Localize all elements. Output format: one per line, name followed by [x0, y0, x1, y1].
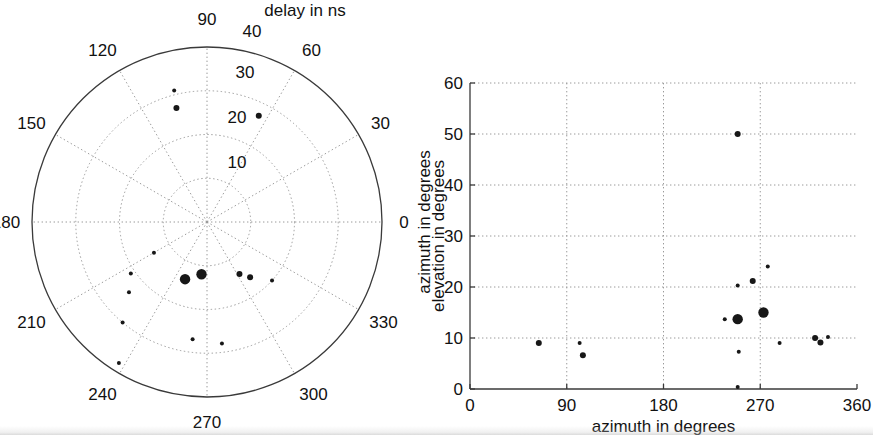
cart-data-point — [766, 265, 770, 269]
polar-radial-tick-label: 30 — [236, 63, 255, 82]
cart-data-point — [735, 131, 741, 137]
cart-x-tick-label: 180 — [649, 396, 677, 415]
polar-data-point — [117, 361, 121, 365]
polar-angular-gridline — [120, 222, 208, 374]
cart-y-tick-label: 10 — [444, 329, 463, 348]
polar-data-point — [172, 88, 176, 92]
polar-data-point — [270, 279, 274, 283]
cart-data-point — [732, 314, 742, 324]
polar-data-point — [127, 290, 131, 294]
polar-angular-tick-label: 180 — [0, 213, 20, 232]
polar-data-point — [121, 321, 125, 325]
polar-data-point — [236, 271, 242, 277]
polar-data-point — [173, 105, 179, 111]
polar-data-point — [152, 251, 156, 255]
cart-data-point — [758, 307, 768, 317]
polar-angular-tick-label: 60 — [302, 41, 321, 60]
polar-angular-tick-label: 120 — [88, 41, 116, 60]
polar-data-point — [256, 113, 262, 119]
figure-root: 030609012015018021024027030033010203040d… — [0, 0, 873, 435]
polar-angular-gridline — [207, 222, 359, 310]
cart-y-axis-title: elevation in degrees — [430, 160, 448, 312]
polar-angular-tick-label: 240 — [88, 385, 116, 404]
polar-radial-tick-label: 10 — [228, 153, 247, 172]
cart-y-tick-label: 50 — [444, 125, 463, 144]
cart-data-point — [578, 341, 582, 345]
cart-data-point — [536, 340, 542, 346]
cart-x-tick-label: 0 — [465, 396, 474, 415]
cartesian-plot-svg: 0102030405060090180270360azimuth in degr… — [430, 0, 873, 435]
cart-data-point — [826, 335, 830, 339]
cart-data-point — [778, 341, 782, 345]
polar-angular-tick-label: 270 — [193, 413, 221, 432]
polar-data-point — [220, 342, 224, 346]
cart-x-tick-label: 270 — [746, 396, 774, 415]
polar-angular-tick-label: 210 — [17, 313, 45, 332]
cart-data-point — [736, 385, 740, 389]
polar-data-point — [247, 274, 253, 280]
polar-plot-svg: 030609012015018021024027030033010203040d… — [0, 0, 440, 435]
polar-plot-panel: 030609012015018021024027030033010203040d… — [0, 0, 440, 435]
cart-data-point — [723, 317, 727, 321]
cart-y-tick-label: 60 — [444, 74, 463, 93]
cart-data-point — [817, 340, 823, 346]
polar-angular-gridline — [120, 70, 208, 222]
cart-data-point — [580, 352, 586, 358]
polar-angular-gridline — [207, 222, 295, 374]
polar-data-point — [196, 269, 206, 279]
polar-angular-gridline — [207, 135, 359, 223]
cart-data-point — [737, 350, 741, 354]
cart-x-axis-title: azimuth in degrees — [592, 417, 736, 435]
polar-angular-gridline — [207, 70, 295, 222]
cart-x-tick-label: 360 — [843, 396, 871, 415]
polar-title: delay in ns — [264, 1, 345, 20]
polar-radial-tick-label: 20 — [228, 108, 247, 127]
cart-data-point — [750, 278, 756, 284]
polar-angular-tick-label: 330 — [369, 313, 397, 332]
polar-angular-tick-label: 30 — [371, 114, 390, 133]
polar-angular-tick-label: 0 — [399, 213, 408, 232]
polar-data-point — [191, 337, 195, 341]
polar-angular-tick-label: 150 — [17, 114, 45, 133]
cart-data-point — [736, 283, 740, 287]
polar-data-point — [180, 274, 190, 284]
cart-x-tick-label: 90 — [557, 396, 576, 415]
cart-y-tick-label: 0 — [454, 380, 463, 399]
polar-angular-tick-label: 90 — [198, 10, 217, 29]
cart-data-point — [812, 335, 818, 341]
polar-data-point — [129, 271, 133, 275]
polar-radial-tick-label: 40 — [243, 22, 262, 41]
polar-angular-tick-label: 300 — [299, 385, 327, 404]
cartesian-plot-panel: 0102030405060090180270360azimuth in degr… — [430, 0, 873, 435]
